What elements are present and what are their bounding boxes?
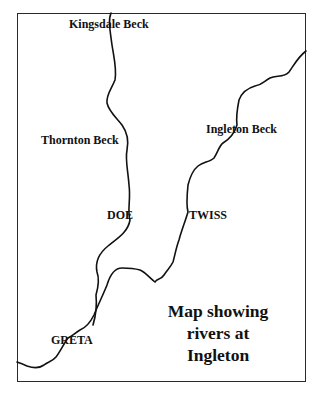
river-doe bbox=[93, 13, 130, 325]
map-title-line-1: Map showing bbox=[158, 300, 278, 322]
label-greta: GRETA bbox=[51, 334, 93, 346]
label-kingsdale-beck: Kingsdale Beck bbox=[69, 18, 149, 30]
map-title-line-2: rivers at bbox=[158, 322, 278, 344]
label-thornton-beck: Thornton Beck bbox=[41, 134, 119, 146]
label-twiss: TWISS bbox=[189, 209, 227, 221]
map-title-line-3: Ingleton bbox=[158, 344, 278, 366]
map-title: Map showing rivers at Ingleton bbox=[158, 300, 278, 366]
label-ingleton-beck: Ingleton Beck bbox=[206, 123, 277, 135]
label-doe: DOE bbox=[107, 209, 133, 221]
